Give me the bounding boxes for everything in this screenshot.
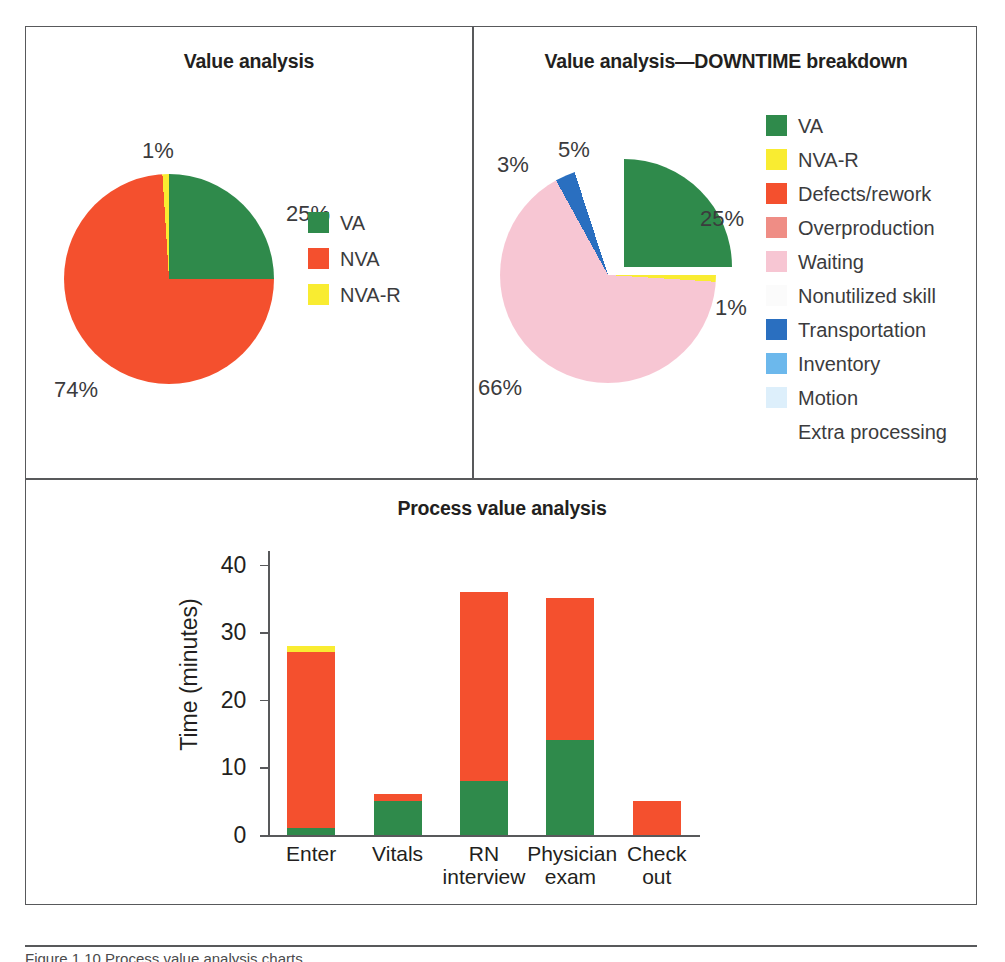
bar-segment-va [287,828,335,835]
downtime-legend-label: Transportation [798,320,926,340]
downtime-title: Value analysis—DOWNTIME breakdown [474,50,978,73]
downtime-legend-item-6: Transportation [766,314,947,345]
x-label-line1: Enter [286,842,336,865]
swatch-icon [766,251,787,272]
downtime-legend-label: Overproduction [798,218,935,238]
swatch-nva-icon [308,248,329,269]
pie1-label-nva: 74% [54,377,98,403]
x-axis-line [268,835,700,837]
swatch-icon [766,149,787,170]
downtime-legend-item-9: Extra processing [766,416,947,447]
legend-label-nva-r: NVA-R [340,285,401,305]
pie2-label-transportation: 3% [497,152,529,178]
y-axis-title: Time (minutes) [176,550,203,800]
swatch-icon [766,421,787,442]
x-label-line2: out [642,865,671,888]
downtime-legend-item-1: NVA-R [766,144,947,175]
pie-slice-va-exploded [516,159,732,375]
bar-segment-va [460,781,508,835]
x-axis-label-4: Checkout [614,843,700,888]
y-tick-label-10: 10 [221,754,247,781]
y-tick-40 [260,565,268,567]
value-analysis-legend: VA NVA NVA-R [308,207,401,315]
bar-segment-nva [287,652,335,828]
downtime-pie-chart: 3% 5% 25% 1% 66% [500,167,732,399]
process-value-analysis-title: Process value analysis [26,497,978,520]
y-tick-label-40: 40 [221,551,247,578]
downtime-legend-label: VA [798,116,823,136]
legend-item-va: VA [308,207,401,238]
x-axis-label-0: Enter [268,843,354,866]
downtime-legend-label: NVA-R [798,150,859,170]
stacked-bar[interactable] [287,551,335,835]
downtime-legend-item-5: Nonutilized skill [766,280,947,311]
figure-caption: Figure 1.10 Process value analysis chart… [25,950,965,962]
downtime-legend-label: Motion [798,388,858,408]
swatch-icon [766,387,787,408]
pie2-label-waiting: 66% [478,375,522,401]
bar-segment-nva [633,801,681,835]
legend-label-nva: NVA [340,249,380,269]
bar-segment-va [374,801,422,835]
bar-segment-nva [460,592,508,781]
legend-label-va: VA [340,213,365,233]
swatch-icon [766,217,787,238]
x-label-line1: Physician [527,842,617,865]
panel-value-analysis: Value analysis 1% 25% 74% VA NVA NVA-R [26,27,472,478]
bar-group-3 [546,551,594,835]
downtime-legend-label: Defects/rework [798,184,931,204]
swatch-icon [766,115,787,136]
y-tick-label-20: 20 [221,686,247,713]
x-label-line1: Check [627,842,687,865]
downtime-legend: VANVA-RDefects/reworkOverproductionWaiti… [766,110,947,450]
downtime-legend-item-3: Overproduction [766,212,947,243]
downtime-legend-item-7: Inventory [766,348,947,379]
downtime-legend-label: Extra processing [798,422,947,442]
figure-frame: Value analysis 1% 25% 74% VA NVA NVA-R V… [25,26,977,905]
swatch-icon [766,353,787,374]
downtime-legend-item-2: Defects/rework [766,178,947,209]
value-analysis-pie-chart: 1% 25% 74% [64,174,274,384]
x-axis-label-2: RNinterview [441,843,527,888]
panel-downtime-breakdown: Value analysis—DOWNTIME breakdown 3% 5% … [474,27,978,478]
bar-segment-nva-r [287,646,335,653]
y-tick-0 [260,835,268,837]
stacked-bar[interactable] [546,551,594,835]
x-label-line2: exam [545,865,596,888]
y-axis-line [268,551,270,835]
bar-group-0 [287,551,335,835]
downtime-legend-item-8: Motion [766,382,947,413]
caption-divider-rule [25,945,977,947]
bar-group-4 [633,551,681,835]
pie1-label-nva-r: 1% [142,138,174,164]
pie-slices-value-analysis [64,174,274,384]
legend-item-nva: NVA [308,243,401,274]
downtime-legend-label: Waiting [798,252,864,272]
downtime-legend-label: Nonutilized skill [798,286,936,306]
bar-plot-area: 010203040EnterVitalsRNinterviewPhysician… [268,551,700,835]
y-tick-label-30: 30 [221,619,247,646]
swatch-va-icon [308,212,329,233]
pie2-label-va: 25% [700,206,744,232]
y-tick-20 [260,700,268,702]
stacked-bar[interactable] [374,551,422,835]
x-label-line1: RN [469,842,499,865]
stacked-bar[interactable] [460,551,508,835]
bar-group-1 [374,551,422,835]
bar-segment-va [546,740,594,835]
swatch-icon [766,285,787,306]
stacked-bar[interactable] [633,551,681,835]
swatch-icon [766,319,787,340]
downtime-legend-item-4: Waiting [766,246,947,277]
x-axis-label-1: Vitals [354,843,440,866]
swatch-nva-r-icon [308,284,329,305]
y-tick-label-0: 0 [234,822,247,849]
process-bar-chart: Time (minutes) 010203040EnterVitalsRNint… [196,543,726,873]
bar-group-2 [460,551,508,835]
legend-item-nva-r: NVA-R [308,279,401,310]
bar-segment-nva [374,794,422,801]
swatch-icon [766,183,787,204]
pie2-label-extra-processing: 5% [558,137,590,163]
pie2-label-nva-r: 1% [715,295,747,321]
x-label-line1: Vitals [372,842,423,865]
